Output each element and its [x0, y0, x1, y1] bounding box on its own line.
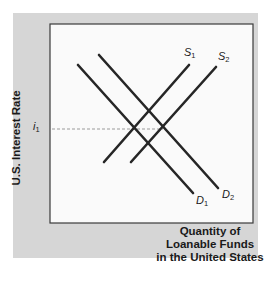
x-axis-label-line-1: Quantity of	[150, 225, 270, 238]
y-axis-label-text: U.S. Interest Rate	[10, 90, 22, 185]
x-axis-label-line-2: Loanable Funds	[150, 238, 270, 251]
x-axis-label-line-3: in the United States	[150, 251, 270, 264]
curve-label-d1: D1	[196, 194, 208, 208]
curve-label-s2: S2	[218, 50, 230, 64]
y-axis-label: U.S. Interest Rate	[6, 73, 26, 203]
tick-label-i1: i1	[33, 120, 40, 134]
x-axis-label: Quantity of Loanable Funds in the United…	[150, 225, 270, 264]
curve-label-d2: D2	[222, 188, 234, 202]
curve-label-s1: S1	[184, 46, 196, 60]
